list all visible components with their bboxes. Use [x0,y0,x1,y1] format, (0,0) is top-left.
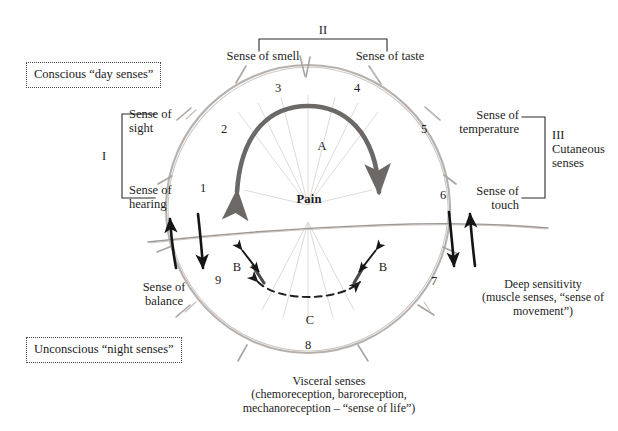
sector-number-2: 2 [221,122,227,136]
sector-number-3: 3 [275,81,281,95]
sector-number-8: 8 [305,338,311,352]
sensory-sphere-diagram: Conscious “day senses” Unconscious “nigh… [0,0,618,431]
receptor-bar-left [253,266,264,283]
label-B-left: B [233,260,241,274]
sector-number-7: 7 [431,274,437,288]
equator-line [148,224,548,243]
label-B-right: B [379,260,387,274]
arc-C-visceral-pathway [258,282,360,297]
label-sense-of-temperature: Sense of temperature [459,108,519,136]
label-sense-of-balance: Sense of balance [143,280,186,308]
label-sense-of-hearing: Sense of hearing [129,183,172,211]
label-visceral-senses: Visceral senses (chemoreception, barorec… [243,375,416,415]
sector-number-6: 6 [440,188,446,202]
label-arc-A: A [317,139,326,153]
label-cutaneous-senses: III Cutaneous senses [552,128,605,170]
arrow-B-right [359,250,376,272]
arrow-balance-down [198,214,203,268]
label-sense-of-smell: Sense of smell [227,49,300,63]
label-sense-of-sight: Sense of sight [129,107,172,135]
label-arc-C: C [306,313,314,327]
label-pain: Pain [296,192,321,206]
sector-number-1: 1 [200,181,206,195]
arrow-deep-up [470,214,475,266]
label-roman-II: II [319,23,327,37]
label-box-conscious: Conscious “day senses” [26,62,161,88]
label-roman-I: I [102,149,106,163]
arrow-deep-down [449,212,454,266]
label-deep-sensitivity: Deep sensitivity (muscle senses, “sense … [482,278,604,318]
arrow-B-left [242,250,259,272]
label-sense-of-touch: Sense of touch [476,184,519,212]
label-sense-of-taste: Sense of taste [356,49,425,63]
sector-number-4: 4 [354,81,360,95]
bracket-III [522,117,545,198]
sector-number-5: 5 [421,122,427,136]
label-box-unconscious: Unconscious “night senses” [26,337,182,363]
sector-number-9: 9 [215,273,221,287]
